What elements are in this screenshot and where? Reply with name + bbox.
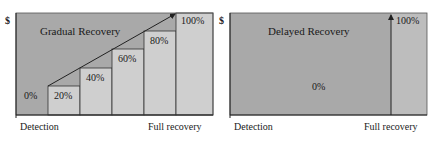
step-label-20: 20%: [54, 90, 72, 101]
bar-100: [176, 13, 213, 115]
step-label-100: 100%: [181, 15, 204, 26]
y-axis-label: $: [219, 15, 224, 26]
step-label-40: 40%: [86, 72, 104, 83]
x-label-full-recovery: Full recovery: [148, 121, 202, 132]
y-axis-label: $: [5, 15, 10, 26]
step-label-60: 60%: [118, 53, 136, 64]
x-label-full-recovery: Full recovery: [364, 121, 418, 132]
step-label-0: 0%: [24, 90, 37, 101]
step-label-0: 0%: [312, 81, 325, 92]
full-recovery-area: [391, 13, 427, 115]
x-label-detection: Detection: [20, 121, 59, 132]
step-label-80: 80%: [150, 35, 168, 46]
delayed-recovery-chart: $ Delayed Recovery 0% 100% Detection Ful…: [214, 0, 428, 141]
chart-title: Gradual Recovery: [40, 25, 120, 37]
gradual-recovery-chart: $ Gradual Recovery 0% 20% 40% 60% 80% 10…: [0, 0, 214, 141]
step-label-100: 100%: [396, 15, 419, 26]
x-label-detection: Detection: [234, 121, 273, 132]
chart-title: Delayed Recovery: [268, 25, 350, 37]
